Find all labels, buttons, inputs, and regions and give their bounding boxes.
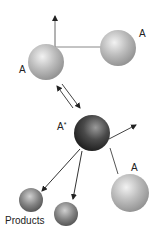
products-label: Products xyxy=(5,216,44,226)
collision-line xyxy=(110,148,118,174)
molecule-a-bottom-right xyxy=(111,174,149,212)
label-a-top-left: A xyxy=(19,65,26,75)
arrow-astar-right xyxy=(109,125,136,139)
arrow-to-product-2 xyxy=(73,151,82,199)
label-a-bottom-right: A xyxy=(131,163,138,173)
diagram-canvas xyxy=(0,0,153,238)
label-a-top-right: A xyxy=(139,29,146,39)
label-a-star: A* xyxy=(57,122,66,132)
product-sphere-2 xyxy=(54,202,78,226)
molecule-a-top-right xyxy=(100,30,136,66)
molecule-a-top-left xyxy=(28,44,64,80)
arrow-to-product-1 xyxy=(42,149,80,191)
reversible-arrow xyxy=(57,84,80,108)
trajectory-top xyxy=(55,16,101,47)
label-a-star-base: A xyxy=(57,121,64,132)
product-sphere-1 xyxy=(19,188,43,212)
label-a-star-superscript: * xyxy=(64,121,67,128)
molecule-a-star xyxy=(74,115,110,151)
